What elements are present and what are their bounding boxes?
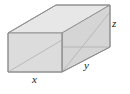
axis-label-x: x [32, 74, 37, 85]
rectangular-box-diagram [0, 0, 130, 94]
front-left-face [8, 33, 62, 72]
axis-label-z: z [112, 18, 116, 29]
figure-container: x y z [0, 0, 130, 94]
axis-label-y: y [84, 60, 89, 71]
